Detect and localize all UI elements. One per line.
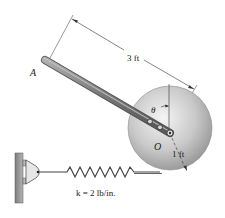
arrowhead-left-icon <box>72 19 78 23</box>
extension-line-a <box>50 15 73 58</box>
radius-label: 1 ft <box>172 149 185 159</box>
spring-mount-bracket <box>23 160 40 184</box>
rod-length-label: 3 ft <box>127 53 140 63</box>
rod-hole-1 <box>148 119 153 124</box>
bracket-pin <box>37 171 40 174</box>
spring-constant-label: k = 2 lb/in. <box>76 188 116 198</box>
disk <box>128 86 212 170</box>
dimension-line-left <box>72 19 124 50</box>
point-o-label: O <box>154 141 161 152</box>
spring <box>40 167 160 177</box>
pendulum-spring-diagram: 3 ft 1 ft A θ O k = 2 lb/in. <box>0 0 225 218</box>
wall <box>15 153 23 203</box>
angle-label: θ <box>151 105 156 115</box>
point-a-label: A <box>29 67 37 78</box>
rod-hole-2 <box>158 125 163 130</box>
